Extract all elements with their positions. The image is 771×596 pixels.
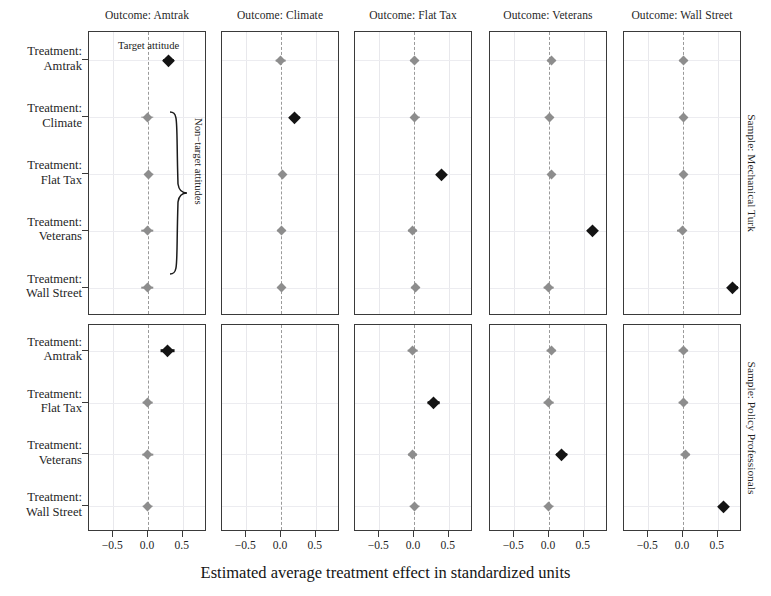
- zero-reference-line: [281, 325, 282, 530]
- estimate-marker: [683, 350, 684, 351]
- row-label-line1: Treatment:: [27, 272, 82, 286]
- panel-mturk-col3: [354, 31, 472, 315]
- estimate-point: [275, 55, 285, 65]
- estimate-point: [678, 346, 688, 356]
- panel-mturk-col5: [623, 31, 741, 315]
- estimate-marker: [167, 350, 168, 351]
- gridline-horizontal: [222, 117, 338, 118]
- estimate-point: [678, 112, 688, 122]
- estimate-point: [555, 448, 567, 460]
- estimate-marker: [732, 287, 733, 288]
- axis-tick: [413, 531, 414, 537]
- panel-mturk-col2: [221, 31, 339, 315]
- estimate-marker: [685, 454, 686, 455]
- axis-tick-label: −0.5: [235, 539, 256, 552]
- axis-tick-label: 0.0: [140, 539, 155, 552]
- panel-policy-col1: [88, 324, 206, 531]
- row-label-mturk-1: Treatment:Amtrak: [0, 44, 82, 73]
- estimate-point: [410, 501, 420, 511]
- row-label-line2: Veterans: [0, 453, 82, 468]
- estimate-point: [678, 169, 688, 179]
- row-axis-tick: [82, 59, 88, 60]
- estimate-point: [677, 226, 687, 236]
- axis-tick-label: −0.5: [102, 539, 123, 552]
- gridline-horizontal: [89, 60, 205, 61]
- row-label-line1: Treatment:: [27, 387, 82, 401]
- axis-tick: [448, 531, 449, 537]
- annotation-target-attitude: Target attitude: [118, 40, 179, 51]
- estimate-marker: [414, 117, 415, 118]
- panel-policy-col4: [489, 324, 607, 531]
- row-axis-tick: [82, 350, 88, 351]
- zero-reference-line: [414, 32, 415, 314]
- estimate-marker: [147, 506, 148, 507]
- estimate-marker: [412, 350, 413, 351]
- estimate-marker: [551, 60, 552, 61]
- estimate-marker: [147, 117, 148, 118]
- estimate-point: [546, 169, 556, 179]
- row-label-line1: Treatment:: [27, 44, 82, 58]
- row-label-mturk-2: Treatment:Climate: [0, 101, 82, 130]
- axis-tick: [182, 531, 183, 537]
- row-axis-tick: [82, 402, 88, 403]
- row-axis-tick: [82, 505, 88, 506]
- estimate-marker: [414, 60, 415, 61]
- estimate-point: [142, 283, 152, 293]
- estimate-marker: [147, 454, 148, 455]
- gridline-vertical: [514, 32, 515, 314]
- estimate-marker: [683, 402, 684, 403]
- sample-strip-2: Sample: Policy Professionals: [746, 361, 758, 494]
- estimate-marker: [548, 402, 549, 403]
- estimate-marker: [682, 230, 683, 231]
- axis-tick: [147, 531, 148, 537]
- row-label-policy-1: Treatment:Amtrak: [0, 335, 82, 364]
- axis-tick-label: 0.5: [440, 539, 455, 552]
- estimate-point: [142, 398, 152, 408]
- estimate-point: [427, 397, 439, 409]
- gridline-vertical: [718, 32, 719, 314]
- x-axis-title: Estimated average treatment effect in st…: [0, 563, 771, 583]
- row-label-line2: Climate: [0, 116, 82, 131]
- gridline-vertical: [113, 32, 114, 314]
- estimate-point: [408, 449, 418, 459]
- gridline-horizontal: [355, 403, 471, 404]
- estimate-marker: [551, 174, 552, 175]
- estimate-point: [289, 111, 301, 123]
- estimate-marker: [548, 287, 549, 288]
- estimate-point: [586, 225, 598, 237]
- axis-tick: [315, 531, 316, 537]
- axis-tick-label: 0.0: [273, 539, 288, 552]
- axis-tick: [513, 531, 514, 537]
- column-title-4: Outcome: Veterans: [489, 9, 607, 21]
- row-axis-tick: [82, 453, 88, 454]
- estimate-marker: [683, 174, 684, 175]
- axis-tick: [583, 531, 584, 537]
- row-label-line2: Flat Tax: [0, 401, 82, 416]
- estimate-point: [144, 169, 154, 179]
- gridline-vertical: [449, 325, 450, 530]
- estimate-point: [680, 449, 690, 459]
- estimate-point: [409, 55, 419, 65]
- row-label-line1: Treatment:: [27, 490, 82, 504]
- axis-tick: [717, 531, 718, 537]
- gridline-horizontal: [89, 351, 205, 352]
- estimate-marker: [415, 287, 416, 288]
- axis-tick-label: 0.5: [174, 539, 189, 552]
- axis-tick: [112, 531, 113, 537]
- panel-policy-col2: [221, 324, 339, 531]
- axis-tick-label: −0.5: [368, 539, 389, 552]
- axis-tick: [280, 531, 281, 537]
- row-label-mturk-5: Treatment:Wall Street: [0, 272, 82, 301]
- gridline-vertical: [449, 32, 450, 314]
- row-label-line2: Wall Street: [0, 286, 82, 301]
- estimate-marker: [168, 60, 169, 61]
- estimate-marker: [147, 287, 148, 288]
- zero-reference-line: [414, 325, 415, 530]
- estimate-point: [546, 55, 556, 65]
- gridline-horizontal: [222, 403, 338, 404]
- row-axis-tick: [82, 116, 88, 117]
- axis-tick-label: 0.0: [406, 539, 421, 552]
- panel-policy-col3: [354, 324, 472, 531]
- estimate-point: [162, 54, 174, 66]
- estimate-point: [142, 112, 152, 122]
